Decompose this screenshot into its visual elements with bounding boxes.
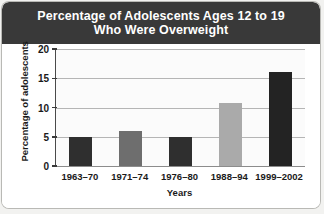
chart-body: Percentage of adolescents 05101520 1963–… [2, 44, 320, 208]
chart-title-band: Percentage of Adolescents Ages 12 to 19 … [2, 2, 320, 44]
y-axis-tick-label: 20 [38, 44, 49, 55]
x-axis-tick-label: 1971–74 [111, 171, 148, 182]
y-axis-tick-label: 15 [38, 73, 49, 84]
bar [169, 137, 192, 166]
bars-group [56, 49, 305, 166]
chart-title: Percentage of Adolescents Ages 12 to 19 … [29, 9, 293, 38]
bar [219, 103, 242, 166]
bar [269, 72, 292, 166]
y-axis-tick-label: 5 [43, 131, 49, 142]
chart-card: Percentage of Adolescents Ages 12 to 19 … [2, 2, 320, 208]
x-axis-tick-label: 1988–94 [211, 171, 248, 182]
bar [119, 131, 142, 166]
y-axis-tick-label: 0 [43, 161, 49, 172]
chart-title-line-1: Percentage of Adolescents Ages 12 to 19 [37, 9, 285, 23]
chart-title-line-2: Who Were Overweight [37, 23, 285, 38]
y-axis-label: Percentage of adolescents [19, 42, 30, 162]
bar [69, 137, 92, 166]
x-axis-label: Years [55, 187, 304, 198]
x-axis-tick-label: 1963–70 [61, 171, 98, 182]
x-axis-tick-label: 1999–2002 [255, 171, 303, 182]
chart-screenshot: Percentage of Adolescents Ages 12 to 19 … [0, 0, 324, 214]
y-axis-tick-label: 10 [38, 102, 49, 113]
plot-area: 05101520 [55, 49, 305, 167]
x-axis-tick-label: 1976–80 [161, 171, 198, 182]
